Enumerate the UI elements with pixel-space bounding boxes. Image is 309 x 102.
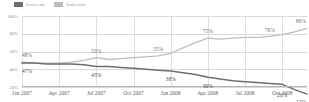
x-tick-jan-2007: Jan 2007	[12, 90, 32, 97]
data-label-53pct: 53%	[91, 48, 101, 54]
data-label-30pct: 30%	[203, 83, 213, 89]
data-label-75pct: 75%	[203, 28, 213, 34]
legend-swatch-dark	[14, 2, 23, 7]
x-axis-labels: Jan 2007Apr 2007Jul 2007Oct 2007Jan 2008…	[22, 90, 307, 102]
y-tick-60%: 60%	[0, 49, 18, 54]
data-label-47pct: 47%	[22, 68, 32, 74]
series-line-series-two	[22, 28, 307, 63]
chart-container: Series one Series two 100%80%60%40%20% 4…	[0, 0, 309, 102]
legend-item-0[interactable]: Series one	[14, 2, 45, 7]
gridline-20%	[22, 87, 307, 88]
y-tick-100%: 100%	[0, 14, 18, 19]
x-tick-oct-2007: Oct 2007	[123, 90, 143, 97]
x-tick-jan-2008: Jan 2008	[161, 90, 181, 97]
data-label-86pct: 86%	[296, 18, 306, 24]
legend-swatch-light	[54, 2, 63, 7]
x-tick-apr-2007: Apr 2007	[49, 90, 70, 97]
data-label-38pct: 38%	[166, 76, 176, 82]
plot-area: 100%80%60%40%20% 48%53%55%75%76%86%47%43…	[22, 16, 307, 87]
y-tick-80%: 80%	[0, 31, 18, 36]
legend-label-1: Series two	[66, 2, 85, 7]
y-tick-40%: 40%	[0, 67, 18, 72]
data-label-76pct: 76%	[265, 27, 275, 33]
x-tick-jul-2007: Jul 2007	[87, 90, 106, 97]
chart-legend: Series one Series two	[14, 0, 86, 9]
x-tick-jul-2008: Jul 2008	[236, 90, 255, 97]
x-axis-line	[22, 86, 307, 87]
data-label-55pct: 55%	[153, 46, 163, 52]
legend-label-0: Series one	[26, 2, 45, 7]
legend-item-1[interactable]: Series two	[54, 2, 85, 7]
data-label-48pct: 48%	[22, 52, 32, 58]
x-tick-oct-2008: Oct 2008	[272, 90, 292, 97]
x-tick-apr-2008: Apr 2008	[197, 90, 218, 97]
data-label-43pct: 43%	[91, 72, 101, 78]
y-tick-20%: 20%	[0, 85, 18, 90]
